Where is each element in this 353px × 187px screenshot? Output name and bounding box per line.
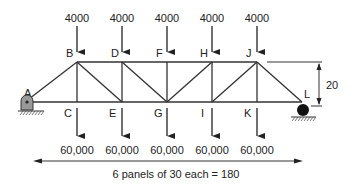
span-label: 6 panels of 30 each = 180	[113, 168, 240, 180]
height-dimension: 20	[267, 62, 338, 106]
node-label-c: C	[64, 107, 72, 119]
load-label-f: 4000	[155, 12, 179, 24]
pin-support-icon	[18, 95, 44, 115]
bottom-loads: 60,000 60,000 60,000 60,000 60,000	[60, 108, 274, 156]
load-label-h: 4000	[200, 12, 224, 24]
top-loads: 4000 4000 4000 4000 4000	[65, 12, 269, 52]
truss-members	[25, 62, 302, 102]
node-label-l: L	[304, 88, 310, 100]
node-label-g: G	[154, 107, 163, 119]
height-label: 20	[326, 79, 338, 91]
node-label-b: B	[66, 47, 73, 59]
node-label-j: J	[246, 47, 252, 59]
node-label-d: D	[111, 47, 119, 59]
load-label-j: 4000	[245, 12, 269, 24]
node-label-f: F	[156, 47, 163, 59]
node-label-e: E	[109, 107, 116, 119]
node-label-i: I	[201, 107, 204, 119]
truss-diagram: 4000 4000 4000 4000 4000 B D F H J A C E…	[0, 0, 353, 187]
span-dimension: 6 panels of 30 each = 180	[33, 159, 303, 181]
load-label-d: 4000	[110, 12, 134, 24]
load-label-e: 60,000	[105, 144, 139, 156]
load-label-k: 60,000	[240, 144, 274, 156]
node-label-k: K	[244, 107, 252, 119]
roller-support-icon	[291, 104, 316, 121]
node-label-h: H	[200, 47, 208, 59]
load-label-c: 60,000	[60, 144, 94, 156]
load-label-g: 60,000	[150, 144, 184, 156]
load-label-b: 4000	[65, 12, 89, 24]
load-label-i: 60,000	[195, 144, 229, 156]
